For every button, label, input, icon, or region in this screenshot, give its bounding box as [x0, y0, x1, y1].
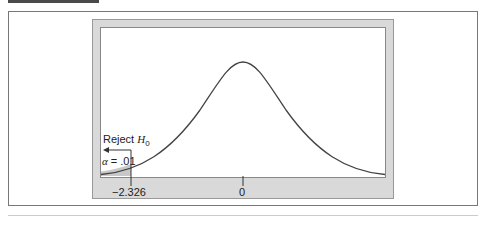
normal-curve	[101, 62, 385, 175]
tick-label-zero: 0	[239, 186, 245, 198]
reject-label: Reject H0	[103, 133, 150, 148]
divider	[8, 215, 478, 216]
tick-label-crit: −2.326	[112, 186, 146, 198]
alpha-label: α = .01	[102, 155, 136, 167]
